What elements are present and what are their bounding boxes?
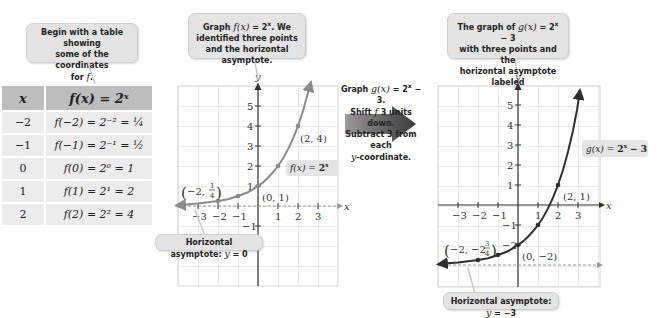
x-axis-label: x xyxy=(344,201,350,212)
svg-text:−2, −2: −2, −2 xyxy=(450,244,486,255)
callout-text: Graph xyxy=(203,23,233,32)
callout-text: = 2 xyxy=(249,23,267,32)
y-tick: 3 xyxy=(247,141,253,152)
svg-text:(: ( xyxy=(444,242,450,260)
y-tick: 5 xyxy=(247,101,253,112)
x-axis-label: x xyxy=(606,200,612,211)
x-tick: 3 xyxy=(575,210,581,221)
callout-text: Horizontal asymptote: xyxy=(451,297,552,306)
note-text: Subtract 3 from each xyxy=(340,129,422,151)
svg-text:): ) xyxy=(491,242,497,260)
x-tick: −2 xyxy=(472,210,487,221)
y-tick: −1 xyxy=(502,220,517,231)
point-label: (0, 1) xyxy=(262,192,289,203)
graph-g: −3 −2 −1 1 2 3 5 4 3 2 1 −1 −2 y x (2, 1… xyxy=(438,71,648,287)
y-tick: 5 xyxy=(507,100,513,111)
svg-text:4: 4 xyxy=(210,192,215,200)
y-tick: 2 xyxy=(247,161,253,172)
callout-text: − 3 xyxy=(500,34,515,43)
callout-text: and the horizontal asymptote. xyxy=(195,44,299,66)
x-tick: 2 xyxy=(555,210,561,221)
asymptote-f-callout: Horizontal asymptote: y = 0 xyxy=(155,234,263,251)
y-tick: −1 xyxy=(242,221,257,232)
curve-label: f(x) = 2x xyxy=(289,161,329,173)
x-tick: 3 xyxy=(315,211,321,222)
x-tick: 1 xyxy=(275,211,281,222)
y-tick: 3 xyxy=(507,140,513,151)
shift-note: Graph g(x) = 2x − 3. Shift f 3 units dow… xyxy=(340,80,422,163)
graph-f-callout: Graph f(x) = 2x. We identified three poi… xyxy=(188,13,306,59)
callout-text: = 0 xyxy=(230,250,248,259)
asymptote-g-callout: Horizontal asymptote: y = −3 xyxy=(443,292,559,310)
x-tick: −2 xyxy=(212,211,227,222)
note-math: g(x) xyxy=(371,83,390,94)
x-tick: −3 xyxy=(452,210,467,221)
y-tick: 1 xyxy=(507,180,513,191)
note-text: = 2 xyxy=(390,85,408,94)
y-tick: 4 xyxy=(247,121,253,132)
callout-text: with three points and the xyxy=(454,44,562,66)
callout-text: The graph of xyxy=(458,23,518,32)
y-tick: 2 xyxy=(507,160,513,171)
note-text: -coordinate. xyxy=(356,153,411,162)
y-tick: 4 xyxy=(507,120,513,131)
callout-sup: x xyxy=(555,20,559,27)
svg-text:): ) xyxy=(216,184,222,202)
callout-text: . We xyxy=(271,23,291,32)
svg-text:1: 1 xyxy=(210,182,214,190)
point-label: (0, −2) xyxy=(522,251,557,262)
svg-text:4: 4 xyxy=(485,250,490,258)
note-text: Shift xyxy=(350,108,374,117)
callout-text: horizontal asymptote labeled xyxy=(454,66,562,88)
point-label: (2, 4) xyxy=(300,133,327,144)
curve-label: g(x) = 2x − 3 xyxy=(586,142,647,154)
callout-text: identified three points xyxy=(195,33,299,44)
point-label: (2, 1) xyxy=(563,191,590,202)
callout-math: g(x) xyxy=(518,21,537,32)
callout-text: = 2 xyxy=(537,23,555,32)
svg-text:−2,: −2, xyxy=(187,186,205,197)
x-tick: 1 xyxy=(535,210,541,221)
callout-text: = −3 xyxy=(491,309,516,318)
svg-text:(: ( xyxy=(181,184,187,202)
x-tick: 2 xyxy=(295,211,301,222)
note-text: Graph xyxy=(341,85,371,94)
callout-math: f(x) xyxy=(233,21,249,32)
graph-g-callout: The graph of g(x) = 2x − 3 with three po… xyxy=(447,13,569,59)
svg-text:3: 3 xyxy=(485,240,489,248)
